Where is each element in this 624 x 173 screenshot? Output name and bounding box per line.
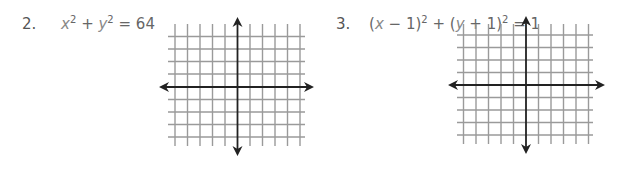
coordinate-grids (0, 0, 624, 173)
